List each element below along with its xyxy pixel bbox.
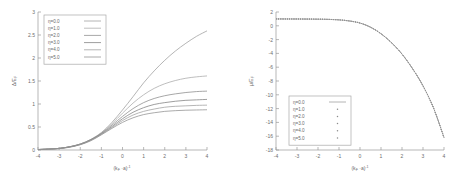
legend-label: η=3.0 [48, 40, 60, 45]
x-tick-label: 1 [380, 153, 383, 159]
x-tick-label: 0 [121, 153, 124, 159]
legend-label: η=0.0 [293, 100, 305, 105]
legend-label: η=2.0 [293, 114, 305, 119]
legend-point-sample [337, 108, 339, 110]
right-y-ticks: 20-2-4-6-8-10-12-14-16-18 [266, 9, 279, 153]
right-plot-svg: -4-3-2-101234 20-2-4-6-8-10-12-14-16-18 … [236, 0, 473, 179]
legend-point-sample [337, 116, 339, 118]
legend-point-sample [337, 137, 339, 139]
y-tick-label: 3 [32, 9, 35, 15]
legend-point-sample [337, 130, 339, 132]
x-tick-label: 3 [184, 153, 187, 159]
right-x-axis-title: (kF ·a)-1 [351, 165, 368, 172]
x-tick-label: 1 [142, 153, 145, 159]
legend-label: η=4.0 [293, 128, 305, 133]
y-tick-label: 2.5 [28, 32, 35, 38]
y-tick-label: -2 [269, 37, 274, 43]
y-tick-label: 1 [32, 101, 35, 107]
left-plot-svg: -4-3-2-101234 00.511.522.53 η=0.0η=1.0η=… [0, 0, 237, 179]
x-tick-label: 0 [359, 153, 362, 159]
legend-label: η=3.0 [293, 121, 305, 126]
legend-label: η=0.0 [48, 19, 60, 24]
y-tick-label: -16 [266, 133, 273, 139]
y-tick-label: -12 [266, 106, 273, 112]
y-tick-label: -8 [269, 78, 274, 84]
right-legend: η=0.0η=1.0η=2.0η=3.0η=4.0η=5.0 [289, 96, 351, 145]
y-tick-label: 0 [32, 147, 35, 153]
left-legend: η=0.0η=1.0η=2.0η=3.0η=4.0η=5.0 [44, 15, 106, 64]
series-curve [38, 99, 207, 149]
x-tick-label: -2 [78, 153, 83, 159]
series-curve [38, 110, 207, 150]
y-tick-label: 0.5 [28, 124, 35, 130]
series-curve [38, 76, 207, 150]
y-tick-label: -4 [269, 50, 274, 56]
x-tick-label: 4 [443, 153, 446, 159]
legend-label: η=5.0 [48, 55, 60, 60]
y-tick-label: 1.5 [28, 78, 35, 84]
legend-label: η=1.0 [48, 26, 60, 31]
x-tick-label: -1 [337, 153, 342, 159]
x-tick-label: 2 [401, 153, 404, 159]
y-tick-label: -14 [266, 119, 273, 125]
series-curve [38, 105, 207, 149]
x-tick-label: 4 [206, 153, 209, 159]
x-tick-label: 2 [163, 153, 166, 159]
legend-label: η=4.0 [48, 47, 60, 52]
legend-label: η=1.0 [293, 107, 305, 112]
x-tick-label: -4 [36, 153, 41, 159]
right-y-axis-title: μ/EF [248, 75, 255, 86]
y-tick-label: -10 [266, 92, 273, 98]
y-tick-label: -18 [266, 147, 273, 153]
legend-label: η=2.0 [48, 33, 60, 38]
y-tick-label: 0 [270, 23, 273, 29]
x-tick-label: -1 [99, 153, 104, 159]
y-tick-label: 2 [270, 9, 273, 15]
chart-panel-right: -4-3-2-101234 20-2-4-6-8-10-12-14-16-18 … [236, 0, 473, 179]
chart-panel-left: -4-3-2-101234 00.511.522.53 η=0.0η=1.0η=… [0, 0, 237, 179]
y-tick-label: -6 [269, 64, 274, 70]
y-tick-label: 2 [32, 55, 35, 61]
left-y-axis-title: Δ/EF [11, 75, 18, 86]
legend-label: η=5.0 [293, 136, 305, 141]
right-x-ticks: -4-3-2-101234 [274, 147, 446, 159]
x-tick-label: 3 [422, 153, 425, 159]
left-x-axis-title: (kF ·a)-1 [113, 165, 130, 172]
legend-point-sample [337, 123, 339, 125]
x-tick-label: -3 [295, 153, 300, 159]
figure-container: -4-3-2-101234 00.511.522.53 η=0.0η=1.0η=… [0, 0, 473, 179]
left-y-ticks: 00.511.522.53 [28, 9, 41, 153]
x-tick-label: -4 [274, 153, 279, 159]
x-tick-label: -3 [57, 153, 62, 159]
left-x-ticks: -4-3-2-101234 [36, 147, 209, 159]
x-tick-label: -2 [316, 153, 321, 159]
